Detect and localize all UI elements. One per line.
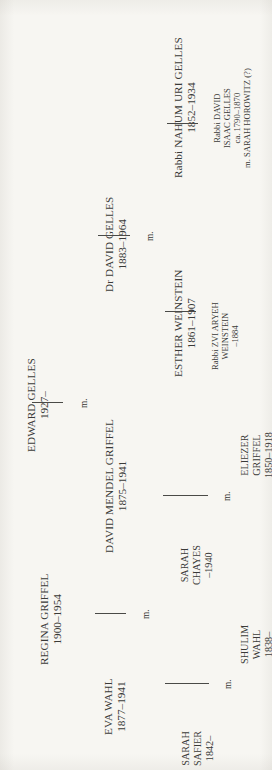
edward-gelles-marriage-label: m. bbox=[79, 398, 89, 408]
eva-wahl-marriage-label: m. bbox=[223, 679, 233, 689]
dr-david-gelles-marriage-line bbox=[98, 235, 130, 236]
family-tree-chart: Rabbi NAHUM URI GELLES 1852–1934 Rabbi D… bbox=[0, 0, 272, 770]
person-name: ESTHER WEINSTEIN bbox=[172, 269, 185, 377]
person-name: EDWARD GELLES bbox=[25, 358, 38, 452]
person-eva-wahl: EVA WAHL 1877–1941 bbox=[102, 678, 128, 735]
person-dates: 1852–1934 bbox=[185, 37, 198, 178]
person-david-mendel-griffel: DAVID MENDEL GRIFFEL 1875–1941 bbox=[103, 419, 129, 553]
person-name: REGINA GRIFFEL bbox=[38, 574, 51, 665]
david-mendel-griffel-marriage-label: m. bbox=[222, 491, 232, 501]
person-dates: 1838– bbox=[263, 625, 272, 664]
person-name-line-1: SARAH bbox=[179, 545, 191, 585]
edward-gelles-marriage-line bbox=[32, 402, 63, 403]
person-sarah-safier: SARAH SAFIER 1842– bbox=[180, 731, 215, 766]
person-sarah-chayes: SARAH CHAYES –1940 bbox=[179, 545, 214, 585]
person-dr-david-gelles: Dr DAVID GELLES 1883–1964 bbox=[103, 197, 129, 292]
person-david-isaac-gelles: Rabbi DAVID ISAAC GELLES ca. 1790–1870 m… bbox=[213, 68, 253, 168]
person-name: Rabbi NAHUM URI GELLES bbox=[172, 37, 185, 178]
person-zvi-aryeh-weinstein: Rabbi ZVI ARYEH WEINSTEIN –1884 bbox=[211, 302, 241, 370]
person-name-line-2: SAFIER bbox=[192, 731, 204, 766]
david-mendel-griffel-marriage-line bbox=[163, 495, 208, 496]
person-nahum-uri-gelles: Rabbi NAHUM URI GELLES 1852–1934 bbox=[172, 37, 198, 178]
person-name: DAVID MENDEL GRIFFEL bbox=[103, 419, 116, 553]
person-eliezer-griffel: ELIEZER GRIFFEL 1850–1918 bbox=[239, 432, 272, 478]
esther-weinstein-descent-line bbox=[165, 311, 196, 312]
person-dates: 1850–1918 bbox=[263, 432, 272, 478]
person-dates: –1940 bbox=[203, 545, 215, 585]
person-shulim-wahl: SHULIM WAHL 1838– bbox=[239, 625, 272, 664]
person-dates: 1883–1964 bbox=[116, 197, 129, 292]
person-name-line-2: WAHL bbox=[251, 625, 263, 664]
person-dates: 1900–1954 bbox=[51, 574, 64, 665]
nahum-uri-gelles-descent-line bbox=[167, 123, 198, 124]
person-name-line-2: CHAYES bbox=[191, 545, 203, 585]
person-name: EVA WAHL bbox=[102, 678, 115, 735]
regina-griffel-marriage-label: m. bbox=[141, 609, 151, 619]
person-dates: 1842– bbox=[204, 731, 216, 766]
eva-wahl-marriage-line bbox=[165, 683, 209, 684]
person-edward-gelles: EDWARD GELLES 1927– bbox=[25, 358, 51, 452]
person-dates: 1877–1941 bbox=[115, 678, 128, 735]
person-name: Dr DAVID GELLES bbox=[103, 197, 116, 292]
person-name-line-2: GRIFFEL bbox=[251, 432, 263, 478]
person-name-line-1: SARAH bbox=[180, 731, 192, 766]
person-spouse: m. SARAH HOROWITZ (?) bbox=[243, 68, 253, 168]
person-dates: 1875–1941 bbox=[116, 419, 129, 553]
person-name-line-1: ELIEZER bbox=[239, 432, 251, 478]
dr-david-gelles-marriage-label: m. bbox=[145, 231, 155, 241]
person-regina-griffel: REGINA GRIFFEL 1900–1954 bbox=[38, 574, 64, 665]
person-esther-weinstein: ESTHER WEINSTEIN 1861–1907 bbox=[172, 269, 198, 377]
person-name-line-1: SHULIM bbox=[239, 625, 251, 664]
person-dates: 1861–1907 bbox=[185, 269, 198, 377]
regina-griffel-marriage-line bbox=[95, 613, 126, 614]
person-dates: 1927– bbox=[38, 358, 51, 452]
person-dates: –1884 bbox=[231, 302, 241, 370]
